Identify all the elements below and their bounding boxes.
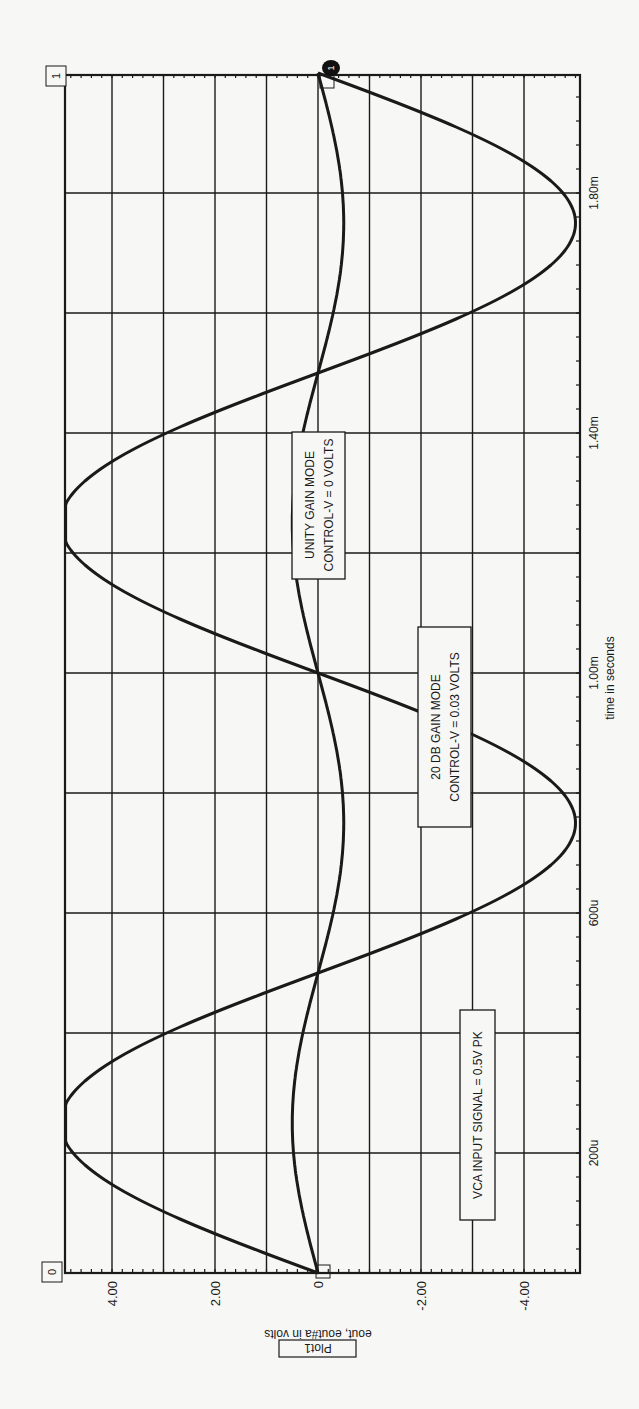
x-tick-label: 1.40m bbox=[587, 416, 601, 449]
annotation-unity-line2: CONTROL-V = 0 VOLTS bbox=[322, 439, 336, 572]
y-tick-label: 2.00 bbox=[208, 1281, 223, 1306]
annotation-20db-line2: CONTROL-V = 0.03 VOLTS bbox=[448, 652, 462, 802]
x-axis-tick-labels: 200u600u1.00m1.40m1.80m bbox=[587, 176, 601, 1166]
x-tick-label: 200u bbox=[587, 1140, 601, 1167]
marker-start-box: 0 bbox=[42, 1262, 62, 1282]
x-tick-label: 1.80m bbox=[587, 176, 601, 209]
annotation-vca-text: VCA INPUT SIGNAL = 0.5V PK bbox=[471, 1031, 485, 1199]
marker-end-label: 1 bbox=[50, 73, 62, 79]
annotation-20db-gain: 20 DB GAIN MODE CONTROL-V = 0.03 VOLTS bbox=[418, 627, 471, 827]
annotation-20db-line1: 20 DB GAIN MODE bbox=[429, 674, 443, 779]
y-axis-tick-labels: 4.002.000-2.00-4.00 bbox=[105, 1281, 532, 1311]
x-tick-label: 600u bbox=[587, 900, 601, 927]
plot-title: Plot1 bbox=[304, 1341, 332, 1355]
annotation-unity-gain: UNITY GAIN MODE CONTROL-V = 0 VOLTS bbox=[292, 432, 345, 579]
marker-start-label: 0 bbox=[46, 1269, 58, 1275]
y-tick-label: -2.00 bbox=[414, 1281, 429, 1311]
annotation-vca-input: VCA INPUT SIGNAL = 0.5V PK bbox=[460, 1010, 495, 1220]
plot-title-box: Plot1 bbox=[279, 1340, 356, 1357]
trace-marker-circle: 1 bbox=[322, 60, 340, 76]
x-axis-title: time in seconds bbox=[603, 636, 617, 719]
y-tick-label: 0 bbox=[311, 1281, 326, 1288]
rotated-line-chart: 4.002.000-2.00-4.00 200u600u1.00m1.40m1.… bbox=[0, 0, 639, 1409]
y-axis-title: eout, eout#a in volts bbox=[264, 1327, 371, 1341]
y-tick-label: -4.00 bbox=[517, 1281, 532, 1311]
marker-end-box: 1 bbox=[46, 66, 66, 86]
trace-marker-label: 1 bbox=[326, 65, 336, 70]
x-tick-label: 1.00m bbox=[587, 656, 601, 689]
minor-ticks bbox=[71, 75, 580, 1273]
annotation-unity-line1: UNITY GAIN MODE bbox=[303, 451, 317, 559]
y-tick-label: 4.00 bbox=[105, 1281, 120, 1306]
